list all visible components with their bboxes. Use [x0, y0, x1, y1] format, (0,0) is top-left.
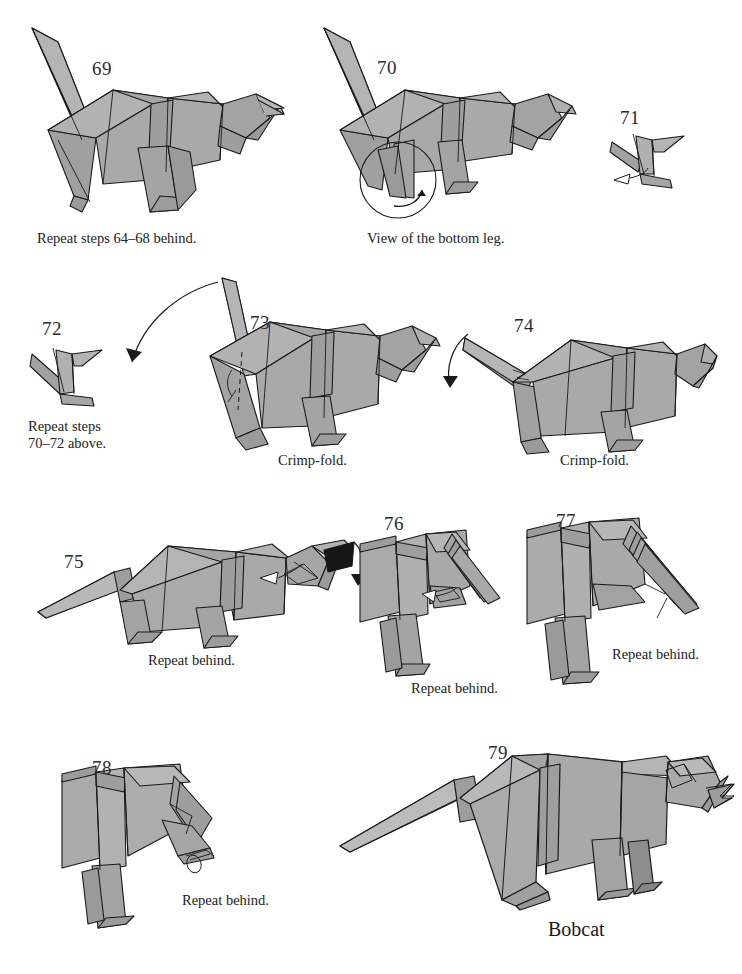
step-caption-74: Crimp-fold. — [560, 452, 629, 469]
figure-step-71 — [608, 130, 718, 200]
figure-step-70 — [310, 20, 580, 220]
step-number-70: 70 — [377, 57, 397, 79]
step-number-75: 75 — [64, 551, 84, 573]
step-caption-69: Repeat steps 64–68 behind. — [37, 230, 196, 247]
step-caption-72: Repeat steps 70–72 above. — [28, 418, 106, 452]
figure-step-75 — [36, 528, 366, 658]
figure-step-69 — [18, 20, 288, 220]
step-number-69: 69 — [92, 58, 112, 80]
step-caption-70: View of the bottom leg. — [367, 230, 504, 247]
step-caption-78: Repeat behind. — [182, 892, 269, 909]
step-number-79: 79 — [488, 742, 508, 764]
crimp-arrow-74 — [438, 330, 498, 400]
step-number-77: 77 — [556, 510, 576, 532]
step-number-78: 78 — [92, 757, 112, 779]
figure-step-76 — [360, 526, 530, 686]
step-caption-75: Repeat behind. — [148, 652, 235, 669]
figure-step-79 — [336, 742, 736, 907]
step-number-74: 74 — [514, 315, 534, 337]
origami-diagram-page: 69 Repeat steps 64–68 behind. — [0, 0, 742, 974]
step-number-76: 76 — [384, 513, 404, 535]
step-caption-77: Repeat behind. — [612, 646, 699, 663]
step-number-73: 73 — [250, 312, 270, 334]
step-number-72: 72 — [42, 318, 62, 340]
step-caption-76: Repeat behind. — [411, 680, 498, 697]
figure-step-73 — [188, 278, 448, 458]
step-number-71: 71 — [620, 107, 640, 129]
step-caption-73: Crimp-fold. — [278, 452, 347, 469]
model-name-label: Bobcat — [548, 918, 605, 941]
